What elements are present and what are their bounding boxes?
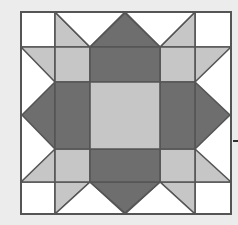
center-square [90, 82, 160, 149]
light-square-tl [55, 47, 90, 82]
dark-rect-bottom [90, 149, 160, 182]
corner-square-tr [195, 12, 231, 47]
dark-rect-top [90, 47, 160, 82]
light-square-bl [55, 149, 90, 182]
dark-rect-left [55, 82, 90, 149]
light-square-tr [160, 47, 195, 82]
corner-square-bl [21, 182, 55, 214]
corner-square-br [195, 182, 231, 214]
edge-tick-mark [233, 140, 238, 142]
light-square-br [160, 149, 195, 182]
dark-rect-right [160, 82, 195, 149]
corner-square-tl [21, 12, 55, 47]
quilt-block-diagram [0, 0, 238, 225]
